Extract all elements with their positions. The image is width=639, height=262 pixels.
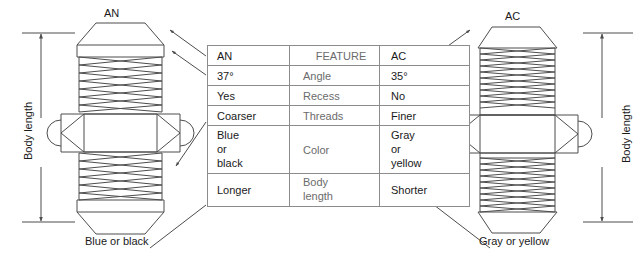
cell-feature-angle: Angle [290, 66, 380, 86]
cell-ac-threads: Finer [380, 106, 470, 126]
cell-feature-color: Color [290, 126, 380, 174]
diagram-canvas: AN AC Blue or black Gray or yellow Body … [0, 0, 639, 262]
cell-ac-body-length: Shorter [380, 174, 470, 207]
right-upper-threads-fine [480, 48, 555, 108]
header-cell-an: AN [208, 46, 290, 66]
cell-feature-recess: Recess [290, 86, 380, 106]
header-ac-label: AC [391, 48, 469, 63]
cell-feature-body-length: Body length [290, 174, 380, 207]
header-feature-label: FEATURE [303, 48, 379, 63]
caption-right-color: Gray or yellow [479, 236, 549, 247]
header-an-label: AN [217, 48, 289, 63]
cell-feature-threads: Threads [290, 106, 380, 126]
header-cell-feature: FEATURE [290, 46, 380, 66]
table-header-row: AN FEATURE AC [208, 46, 470, 66]
header-cell-ac: AC [380, 46, 470, 66]
right-bottom-flare-cone [478, 212, 557, 233]
left-top-flare-cone [77, 23, 164, 57]
table-row: 37° Angle 35° [208, 66, 470, 86]
leader-left-flare [170, 30, 206, 56]
label-ac-title: AC [505, 11, 520, 22]
table-row: Longer Body length Shorter [208, 174, 470, 207]
table-row: Coarser Threads Finer [208, 106, 470, 126]
left-bottom-flare-cone [77, 200, 164, 234]
caption-left-color: Blue or black [85, 236, 149, 247]
dimension-label-right-body-length: Body length [621, 105, 632, 163]
cell-ac-color: Gray or yellow [380, 126, 470, 174]
cell-ac-recess: No [380, 86, 470, 106]
left-upper-threads-coarse [79, 57, 162, 112]
table-row: Blue or black Color Gray or yellow [208, 126, 470, 174]
cell-an-recess: Yes [208, 86, 290, 106]
right-upper-shoulder [480, 108, 555, 115]
cell-an-threads: Coarser [208, 106, 290, 126]
fitting-left-an [47, 23, 194, 234]
left-lower-threads-coarse [79, 153, 162, 200]
right-top-flare-cone [478, 27, 557, 48]
right-lower-shoulder [480, 153, 555, 158]
leader-left-recess [172, 51, 206, 75]
leader-left-color [150, 205, 206, 248]
cell-an-color: Blue or black [208, 126, 290, 174]
label-an-title: AN [104, 8, 119, 19]
right-lower-threads-fine [480, 158, 555, 212]
comparison-table-body: AN FEATURE AC 37° Angle 35° Yes Recess N… [208, 46, 470, 207]
left-hex-nut [47, 114, 194, 152]
cell-ac-angle: 35° [380, 66, 470, 86]
cell-an-body-length: Longer [208, 174, 290, 207]
cell-an-angle: 37° [208, 66, 290, 86]
dimension-label-left-body-length: Body length [23, 102, 34, 160]
leaders-left [150, 30, 206, 248]
table-row: Yes Recess No [208, 86, 470, 106]
comparison-table: AN FEATURE AC 37° Angle 35° Yes Recess N… [207, 45, 470, 207]
